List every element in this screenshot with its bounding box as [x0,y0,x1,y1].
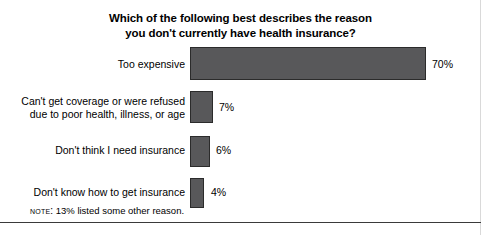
bar-row: Can't get coverage or were refused due t… [0,91,481,129]
bar-label: Can't get coverage or were refused due t… [8,95,185,121]
bar-label-line: Too expensive [8,58,185,71]
bar-rect [190,91,213,123]
bar-value-label: 6% [216,144,231,157]
chart-note-text: 13% listed some other reason. [56,205,184,216]
chart-note-kicker: Note: [30,205,53,216]
bar-value-label: 4% [211,186,226,199]
chart-title-line-2: you don't currently have health insuranc… [0,26,481,41]
bar-value-label: 70% [432,58,453,71]
bar-label: Don't think I need insurance [8,144,185,157]
frame-bottom-rule [0,222,481,223]
chart-title-line-1: Which of the following best describes th… [0,11,481,26]
bar-label: Don't know how to get insurance [8,186,185,199]
chart-title: Which of the following best describes th… [0,11,481,40]
bar-value-label: 7% [219,101,234,114]
bar-label: Too expensive [8,58,185,71]
bar-label-line: Can't get coverage or were refused [8,95,185,108]
bar-row: Too expensive 70% [0,47,481,84]
bar-rect [190,47,426,80]
bar-rect [190,136,210,167]
chart-note: Note: 13% listed some other reason. [30,205,184,216]
bar-row: Don't think I need insurance 6% [0,136,481,169]
bar-label-line: Don't think I need insurance [8,144,185,157]
bar-chart-figure: Which of the following best describes th… [0,0,481,235]
bar-rect [190,178,204,208]
bar-label-line: Don't know how to get insurance [8,186,185,199]
plot-area: Too expensive 70% Can't get coverage or … [0,47,481,199]
bar-label-line: due to poor health, illness, or age [8,108,185,121]
